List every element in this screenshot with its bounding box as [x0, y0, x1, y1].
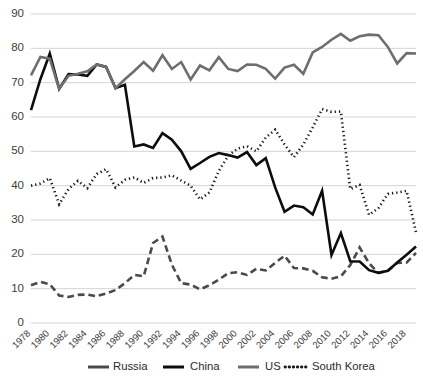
y-tick-label: 80 — [11, 41, 24, 53]
legend-label-china[interactable]: China — [190, 360, 220, 372]
y-tick-label: 10 — [11, 282, 24, 294]
y-tick-label: 60 — [11, 110, 24, 122]
chart-canvas: 0102030405060708090 19781980198219841986… — [0, 0, 423, 385]
legend-label-us[interactable]: US — [265, 360, 281, 372]
y-tick-label: 40 — [11, 179, 24, 191]
line-chart: 0102030405060708090 19781980198219841986… — [0, 0, 423, 385]
y-tick-label: 0 — [18, 316, 24, 328]
y-tick-label: 30 — [11, 213, 24, 225]
y-tick-label: 50 — [11, 144, 24, 156]
y-tick-label: 20 — [11, 247, 24, 259]
legend-label-south-korea[interactable]: South Korea — [312, 360, 376, 372]
y-tick-label: 90 — [11, 7, 24, 19]
legend-label-russia[interactable]: Russia — [113, 360, 148, 372]
y-tick-label: 70 — [11, 76, 24, 88]
